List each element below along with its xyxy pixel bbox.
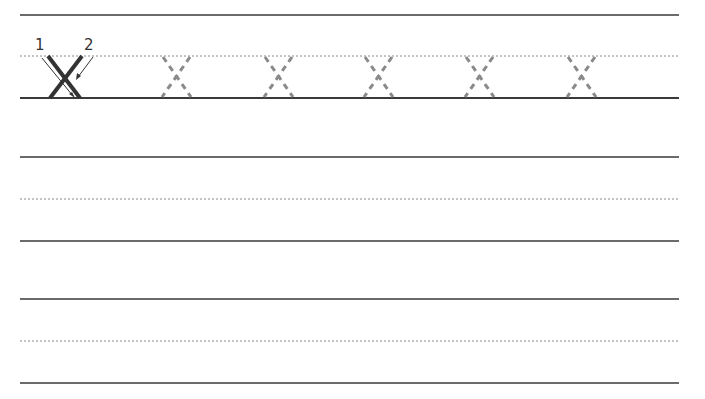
stroke-label-2: 2 xyxy=(84,38,94,53)
stroke-label-1: 1 xyxy=(35,38,45,53)
writing-row-3 xyxy=(20,299,679,383)
traced-letter-x-3 xyxy=(364,57,393,97)
stroke-arrow-1 xyxy=(42,58,75,98)
traced-letters xyxy=(162,57,596,97)
worksheet-canvas xyxy=(0,0,705,399)
traced-letter-x-1 xyxy=(162,57,191,97)
handwriting-worksheet: 1 2 xyxy=(0,0,705,399)
traced-letter-x-2 xyxy=(264,57,293,97)
traced-letter-x-5 xyxy=(567,57,596,97)
writing-row-1 xyxy=(20,15,679,98)
traced-letter-x-4 xyxy=(465,57,494,97)
writing-row-2 xyxy=(20,157,679,241)
